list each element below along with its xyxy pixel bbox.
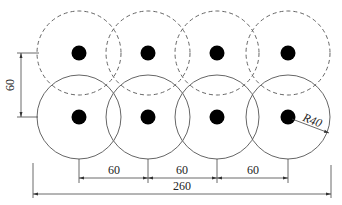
- dot-bottom-3: [210, 110, 225, 125]
- dot-top-2: [141, 46, 156, 61]
- vertical-dimension: [17, 53, 39, 117]
- dot-top-4: [281, 46, 296, 61]
- spacing-label-1: 60: [108, 163, 120, 177]
- dot-top-1: [72, 46, 87, 61]
- vertical-dimension-label: 60: [3, 79, 17, 91]
- overall-width-label: 260: [173, 179, 191, 193]
- dot-top-3: [210, 46, 225, 61]
- dot-bottom-2: [141, 110, 156, 125]
- drawing-canvas: 60 60 60 60 260 R40: [0, 0, 342, 205]
- dot-bottom-4: [281, 110, 296, 125]
- spacing-label-3: 60: [247, 163, 259, 177]
- radius-label: R40: [300, 110, 324, 130]
- technical-drawing: 60 60 60 60 260 R40: [0, 0, 342, 205]
- dot-bottom-1: [72, 110, 87, 125]
- spacing-label-2: 60: [176, 163, 188, 177]
- center-dots: [72, 46, 296, 125]
